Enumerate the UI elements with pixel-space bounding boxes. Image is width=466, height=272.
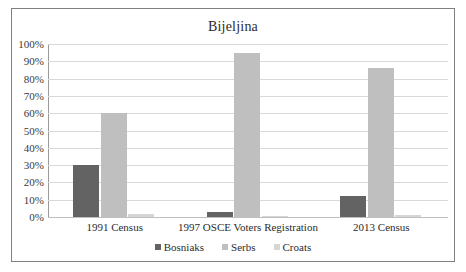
bar-croats-1 bbox=[128, 214, 154, 217]
y-axis-tick-label: 40% bbox=[24, 142, 44, 154]
legend-swatch-icon bbox=[155, 244, 161, 250]
y-axis-tick-label: 50% bbox=[24, 125, 44, 137]
y-axis-tick-label: 10% bbox=[24, 194, 44, 206]
y-axis-tick-label: 90% bbox=[24, 55, 44, 67]
y-axis-tick-label: 100% bbox=[18, 38, 44, 50]
legend-label: Croats bbox=[283, 241, 312, 253]
chart-title: Bijeljina bbox=[12, 19, 454, 35]
chart-screenshot: Bijeljina 100%90%80%70%60%50%40%30%20%10… bbox=[0, 0, 466, 272]
y-axis-tick-label: 20% bbox=[24, 176, 44, 188]
gridline bbox=[48, 217, 448, 218]
x-axis-category-label: 1991 Census bbox=[86, 221, 143, 233]
legend-item-serbs[interactable]: Serbs bbox=[222, 241, 255, 253]
legend-item-bosniaks[interactable]: Bosniaks bbox=[155, 241, 204, 253]
legend-label: Serbs bbox=[231, 241, 255, 253]
legend-swatch-icon bbox=[222, 244, 228, 250]
bar-bosniaks-3 bbox=[340, 196, 366, 217]
y-axis-tick-label: 80% bbox=[24, 73, 44, 85]
x-axis-category-label: 2013 Census bbox=[353, 221, 410, 233]
chart-legend: BosniaksSerbsCroats bbox=[12, 241, 454, 253]
bar-croats-2 bbox=[262, 216, 288, 217]
legend-swatch-icon bbox=[274, 244, 280, 250]
bar-serbs-3 bbox=[368, 68, 394, 217]
bar-serbs-1 bbox=[101, 113, 127, 217]
y-axis-tick-label: 0% bbox=[29, 211, 44, 223]
bar-croats-3 bbox=[395, 215, 421, 217]
gridline bbox=[48, 44, 448, 45]
bar-bosniaks-2 bbox=[207, 212, 233, 217]
bar-bosniaks-1 bbox=[73, 165, 99, 217]
y-axis-tick-label: 60% bbox=[24, 107, 44, 119]
bar-serbs-2 bbox=[234, 53, 260, 217]
y-axis-tick-label: 30% bbox=[24, 159, 44, 171]
x-axis-category-label: 1997 OSCE Voters Registration bbox=[178, 221, 318, 233]
legend-item-croats[interactable]: Croats bbox=[274, 241, 312, 253]
y-axis-tick-label: 70% bbox=[24, 90, 44, 102]
chart-frame: Bijeljina 100%90%80%70%60%50%40%30%20%10… bbox=[11, 8, 455, 262]
plot-area: 100%90%80%70%60%50%40%30%20%10%0% 1991 C… bbox=[48, 44, 448, 217]
legend-label: Bosniaks bbox=[164, 241, 204, 253]
